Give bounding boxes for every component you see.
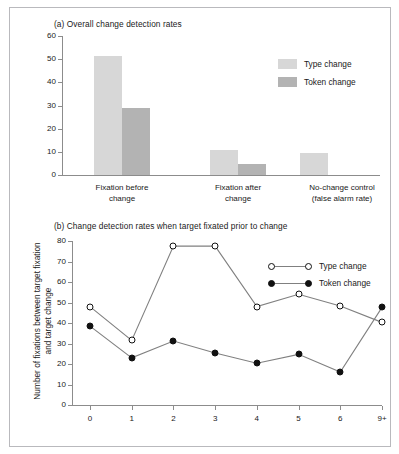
figure-frame: (a) Overall change detection rates 01020… [9, 7, 391, 447]
panel-a-y-tick [58, 59, 62, 60]
panel-b-x-tick-label: 2 [153, 414, 193, 423]
data-point-type-change [337, 302, 344, 309]
bar-type-change [94, 56, 122, 175]
bar-type-change [300, 153, 328, 175]
panel-a-y-axis [62, 36, 63, 176]
panel-b-x-tick-label: 9+ [362, 414, 399, 423]
panel-b-x-tick-label: 5 [279, 414, 319, 423]
data-point-token-change [128, 354, 135, 361]
data-point-token-change [295, 351, 302, 358]
bar-type-change [210, 150, 238, 175]
legend-swatch-token-change [278, 77, 297, 87]
panel-a-legend-item: Token change [278, 74, 356, 89]
data-point-token-change [253, 360, 260, 367]
legend-line [272, 266, 308, 267]
data-point-token-change [170, 338, 177, 345]
panel-b-legend-label: Token change [319, 278, 371, 288]
panel-a-title: (a) Overall change detection rates [54, 19, 182, 29]
data-point-type-change [379, 319, 386, 326]
bar-token-change [122, 108, 150, 175]
panel-a-y-tick-label: 20 [28, 124, 56, 133]
panel-a-y-tick [58, 175, 62, 176]
legend-swatch-type-change [278, 59, 297, 69]
panel-a-y-tick-label: 40 [28, 77, 56, 86]
legend-marker-filled-circle [268, 280, 275, 287]
panel-a-legend-label: Type change [304, 59, 352, 69]
panel-b-legend-item: Token change [268, 276, 371, 290]
panel-a-y-tick-label: 30 [28, 101, 56, 110]
panel-a-y-tick-label: 60 [28, 31, 56, 40]
panel-b-x-tick-label: 1 [112, 414, 152, 423]
data-point-type-change [253, 303, 260, 310]
panel-b-legend: Type changeToken change [268, 259, 371, 293]
legend-marker-filled-circle [305, 280, 312, 287]
panel-a-y-tick [58, 152, 62, 153]
data-point-token-change [87, 323, 94, 330]
data-point-token-change [379, 304, 386, 311]
data-point-type-change [212, 243, 219, 250]
panel-a-legend-label: Token change [304, 77, 356, 87]
panel-a-category-label: No-change control(false alarm rate) [282, 183, 399, 204]
panel-a-x-axis [62, 175, 380, 176]
panel-a-y-tick-label: 10 [28, 147, 56, 156]
data-point-type-change [170, 243, 177, 250]
panel-a-y-tick [58, 36, 62, 37]
panel-a-bar-chart: (a) Overall change detection rates 01020… [10, 8, 392, 215]
data-point-type-change [87, 303, 94, 310]
panel-a-legend-item: Type change [278, 56, 356, 71]
legend-marker-open-circle [305, 263, 312, 270]
panel-b-series-lines [10, 213, 392, 446]
data-point-type-change [128, 337, 135, 344]
panel-b-x-tick-label: 3 [195, 414, 235, 423]
panel-a-category-label: Fixation beforechange [62, 183, 182, 204]
panel-a-y-tick [58, 129, 62, 130]
panel-a-y-tick [58, 82, 62, 83]
panel-a-y-tick-label: 0 [28, 170, 56, 179]
panel-b-legend-item: Type change [268, 259, 371, 273]
data-point-token-change [212, 349, 219, 356]
panel-b-legend-label: Type change [319, 261, 367, 271]
data-point-token-change [337, 368, 344, 375]
legend-marker-open-circle [268, 263, 275, 270]
panel-b-x-tick-label: 4 [237, 414, 277, 423]
legend-line-sample [268, 261, 312, 271]
panel-b-line-chart: (b) Change detection rates when target f… [10, 213, 392, 446]
bar-token-change [238, 164, 266, 175]
panel-b-x-tick-label: 0 [70, 414, 110, 423]
legend-line [272, 283, 308, 284]
panel-a-category-label: Fixation afterchange [178, 183, 298, 204]
panel-a-legend: Type changeToken change [278, 56, 356, 92]
panel-a-y-tick-label: 50 [28, 54, 56, 63]
panel-b-x-tick-label: 6 [320, 414, 360, 423]
legend-line-sample [268, 278, 312, 288]
panel-a-y-tick [58, 106, 62, 107]
